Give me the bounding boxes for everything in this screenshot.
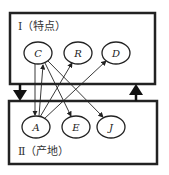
bottom-box-label: Ⅱ（产地） — [18, 144, 69, 158]
diagram-canvas: Ⅰ（特点） Ⅱ（产地） C R D A E J — [0, 0, 169, 175]
svg-text:R: R — [73, 48, 82, 59]
svg-text:D: D — [111, 48, 120, 59]
svg-text:E: E — [71, 122, 80, 133]
node-e: E — [62, 116, 90, 138]
node-d: D — [102, 42, 130, 64]
svg-text:A: A — [31, 122, 39, 133]
edge-a-c — [39, 65, 43, 116]
node-r: R — [64, 42, 92, 64]
top-box-label: Ⅰ（特点） — [18, 19, 66, 33]
node-c: C — [24, 42, 52, 64]
node-j: J — [97, 116, 125, 138]
arrow-up-icon — [129, 84, 143, 101]
node-a: A — [22, 116, 50, 138]
arrow-down-icon — [13, 84, 27, 101]
svg-text:C: C — [34, 48, 42, 59]
edges — [35, 61, 106, 119]
svg-text:J: J — [107, 122, 114, 133]
